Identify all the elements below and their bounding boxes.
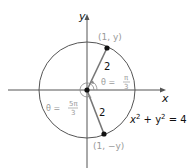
unit-circle-diagram: y x (1, y) (1, −y) 2 2 θ = π 3 θ = 5π 3 …	[0, 0, 189, 168]
upper-angle-denominator: 3	[124, 83, 128, 91]
circle-equation: x2 + y2 = 4	[129, 113, 187, 125]
lower-angle-denominator: 3	[71, 109, 75, 117]
upper-length-label: 2	[104, 61, 110, 72]
upper-angle-label: θ =	[101, 78, 115, 87]
lower-angle-label: θ =	[46, 104, 60, 113]
point-upper	[104, 45, 109, 50]
lower-length-label: 2	[99, 107, 105, 118]
lower-point-label: (1, −y)	[93, 141, 124, 151]
upper-angle-numerator: π	[124, 74, 129, 82]
upper-point-label: (1, y)	[98, 32, 122, 42]
point-lower	[101, 131, 106, 136]
origin-point	[84, 87, 89, 92]
x-axis-label: x	[161, 92, 169, 105]
y-axis-label: y	[78, 10, 86, 23]
lower-angle-numerator: 5π	[69, 100, 78, 108]
diagram-canvas: y x (1, y) (1, −y) 2 2 θ = π 3 θ = 5π 3 …	[0, 0, 189, 168]
